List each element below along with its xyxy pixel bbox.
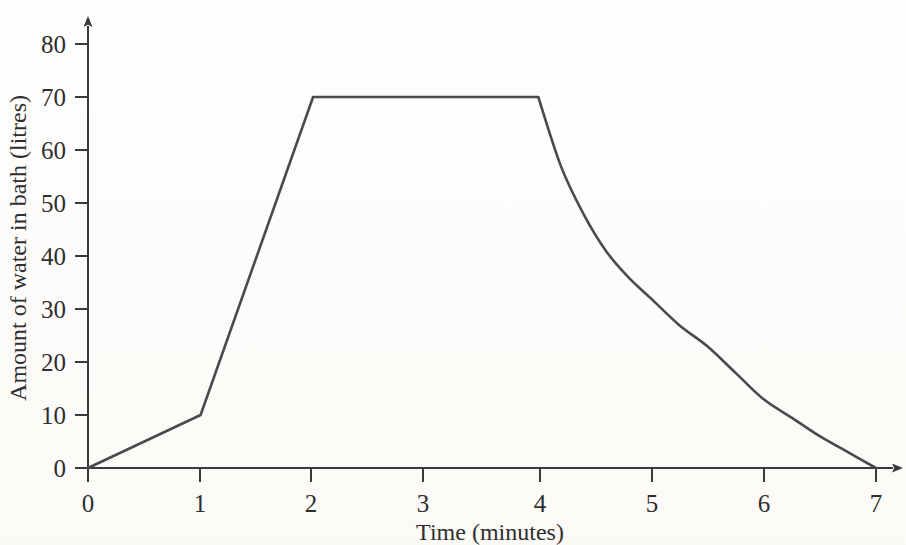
- y-tick-label-50: 50: [41, 190, 66, 217]
- y-tick-label-70: 70: [41, 84, 66, 111]
- axes-group: [88, 26, 893, 468]
- x-axis-title: Time (minutes): [416, 519, 564, 545]
- y-tick-label-30: 30: [41, 296, 66, 323]
- data-series-line: [88, 97, 876, 468]
- chart-canvas: 0 1 2 3 4 5 6 7 0 10 20 30 40 50: [0, 0, 906, 545]
- x-tick-label-1: 1: [194, 490, 207, 517]
- x-tick-label-6: 6: [758, 490, 771, 517]
- bath-water-line-chart: 0 1 2 3 4 5 6 7 0 10 20 30 40 50: [0, 0, 906, 545]
- y-tick-label-20: 20: [41, 349, 66, 376]
- x-axis-ticks: [88, 468, 876, 482]
- y-axis-ticks: [75, 44, 88, 468]
- x-tick-label-0: 0: [82, 490, 95, 517]
- y-axis-title: Amount of water in bath (litres): [5, 95, 31, 401]
- y-tick-label-0: 0: [54, 455, 67, 482]
- y-axis-tick-labels: 0 10 20 30 40 50 60 70 80: [41, 31, 66, 482]
- x-tick-label-5: 5: [646, 490, 659, 517]
- y-tick-label-40: 40: [41, 243, 66, 270]
- x-axis-tick-labels: 0 1 2 3 4 5 6 7: [82, 490, 883, 517]
- y-tick-label-80: 80: [41, 31, 66, 58]
- x-tick-label-7: 7: [870, 490, 883, 517]
- y-tick-label-60: 60: [41, 137, 66, 164]
- y-tick-label-10: 10: [41, 402, 66, 429]
- x-tick-label-4: 4: [534, 490, 547, 517]
- x-tick-label-3: 3: [417, 490, 430, 517]
- x-tick-label-2: 2: [305, 490, 318, 517]
